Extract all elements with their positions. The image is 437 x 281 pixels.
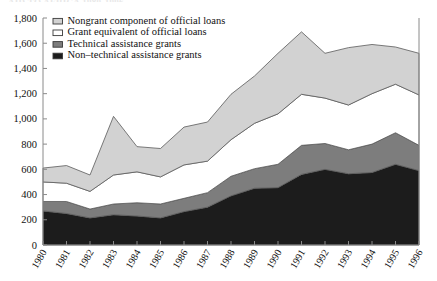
legend: Nongrant component of official loansGran… bbox=[53, 15, 225, 61]
legend-label-non_technical_assistance_grants: Non–technical assistance grants bbox=[68, 49, 202, 60]
y-tick-label: 800 bbox=[21, 139, 37, 150]
x-tick-label: 1985 bbox=[147, 248, 167, 271]
clipped-chart-title: AID TO AFRICA 1980-1996 bbox=[8, 0, 124, 2]
legend-swatch-non_technical_assistance_grants bbox=[53, 53, 63, 59]
x-tick-label: 1987 bbox=[194, 248, 214, 271]
x-tick-label: 1989 bbox=[241, 248, 261, 271]
legend-swatch-nongrant_component_of_official_loans bbox=[53, 18, 63, 24]
x-tick-label: 1993 bbox=[335, 248, 355, 271]
y-tick-label: 1,400 bbox=[13, 63, 37, 74]
y-tick-label: 1,200 bbox=[13, 88, 37, 99]
x-tick-label: 1990 bbox=[264, 248, 284, 271]
legend-label-technical_assistance_grants: Technical assistance grants bbox=[68, 38, 182, 49]
x-tick-label: 1991 bbox=[288, 248, 308, 271]
chart-container: AID TO AFRICA 1980-1996 02004006008001,0… bbox=[0, 0, 437, 281]
y-tick-label: 1,600 bbox=[13, 38, 37, 49]
x-tick-label: 1995 bbox=[382, 248, 402, 271]
x-tick-label: 1981 bbox=[53, 248, 73, 271]
area-bands bbox=[43, 32, 419, 245]
y-tick-label: 1,800 bbox=[13, 13, 37, 24]
legend-label-grant_equivalent_of_official_loans: Grant equivalent of official loans bbox=[68, 26, 207, 37]
x-tick-label: 1988 bbox=[217, 248, 237, 271]
y-tick-label: 0 bbox=[32, 240, 37, 251]
y-tick-label: 1,000 bbox=[13, 113, 37, 124]
x-tick-label: 1994 bbox=[358, 248, 378, 271]
x-tick-label: 1996 bbox=[405, 248, 425, 271]
legend-swatch-grant_equivalent_of_official_loans bbox=[53, 30, 63, 36]
x-tick-label: 1986 bbox=[170, 248, 190, 271]
legend-swatch-technical_assistance_grants bbox=[53, 42, 63, 48]
y-tick-label: 600 bbox=[21, 164, 37, 175]
x-tick-label: 1983 bbox=[100, 248, 120, 271]
x-tick-label: 1980 bbox=[29, 248, 49, 271]
y-axis: 02004006008001,0001,2001,4001,6001,800 bbox=[13, 13, 47, 251]
y-tick-label: 200 bbox=[21, 214, 37, 225]
stacked-area-chart: 02004006008001,0001,2001,4001,6001,80019… bbox=[0, 0, 437, 281]
legend-label-nongrant_component_of_official_loans: Nongrant component of official loans bbox=[68, 15, 226, 26]
x-tick-label: 1992 bbox=[311, 248, 331, 271]
x-tick-label: 1984 bbox=[123, 248, 143, 271]
x-tick-label: 1982 bbox=[76, 248, 96, 271]
y-tick-label: 400 bbox=[21, 189, 37, 200]
